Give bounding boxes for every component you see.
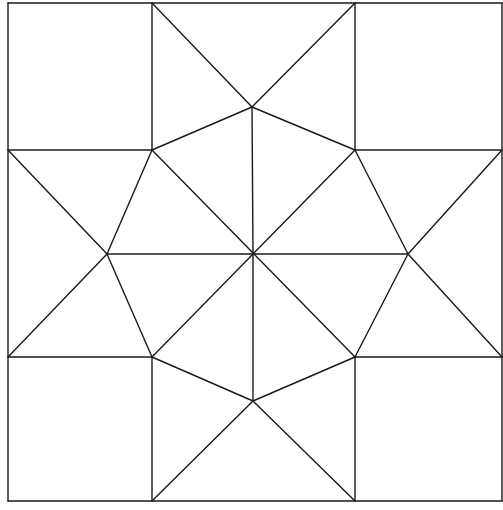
bottom-v-right xyxy=(253,401,355,501)
top-v-right xyxy=(252,3,355,107)
diamond-tr-top xyxy=(252,107,355,150)
diamond-tr-right xyxy=(355,150,408,254)
diamond-br-bottom xyxy=(253,357,355,401)
left-v-bottom xyxy=(8,254,107,357)
quilt-block-diagram xyxy=(0,0,503,510)
diamond-tl-left xyxy=(107,150,152,254)
left-v-top xyxy=(8,150,107,254)
axis-top xyxy=(252,107,253,254)
diamond-br-right xyxy=(355,254,408,357)
right-v-bottom xyxy=(408,254,502,357)
diamond-tl-top xyxy=(152,107,252,150)
top-v-left xyxy=(152,3,252,107)
diamond-bl-left xyxy=(107,254,152,357)
right-v-top xyxy=(408,150,502,254)
diamond-bl-bottom xyxy=(152,357,253,401)
bottom-v-left xyxy=(152,401,253,501)
